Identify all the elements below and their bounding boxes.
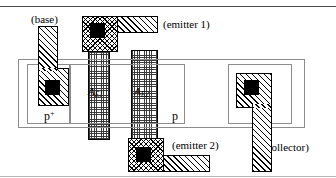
figure-canvas: (base) (emitter 1) (emitter 2) (collecto… xyxy=(0,0,336,178)
top-rule xyxy=(0,6,336,7)
label-area-e2-subscript: E2 xyxy=(141,90,149,99)
emitter-2-metal-arm xyxy=(163,155,210,172)
collector-metal-seam xyxy=(253,104,271,108)
emitter-2-contact-square xyxy=(136,147,151,162)
label-area-e1-subscript: E1 xyxy=(95,90,103,99)
label-p-plus: p+ xyxy=(44,110,55,124)
bottom-rule xyxy=(0,176,336,177)
collector-metal-tail xyxy=(252,104,272,172)
base-contact-square xyxy=(45,80,60,95)
collector-contact-square xyxy=(244,80,259,95)
label-area-e1-symbol: A xyxy=(88,85,95,97)
base-metal-seam xyxy=(39,68,57,71)
label-emitter-2: (emitter 2) xyxy=(172,140,219,151)
label-emitter-1: (emitter 1) xyxy=(163,19,210,30)
label-p-plus-superscript: + xyxy=(50,109,55,118)
emitter-1-metal-arm xyxy=(117,16,158,33)
label-p: p xyxy=(172,110,178,122)
emitter-1-contact-square xyxy=(90,23,105,38)
base-metal-stem xyxy=(38,26,58,70)
label-base: (base) xyxy=(31,14,58,25)
label-area-e1: AE1 xyxy=(88,86,103,98)
label-area-e2: AE2 xyxy=(134,86,149,98)
label-area-e2-symbol: A xyxy=(134,85,141,97)
